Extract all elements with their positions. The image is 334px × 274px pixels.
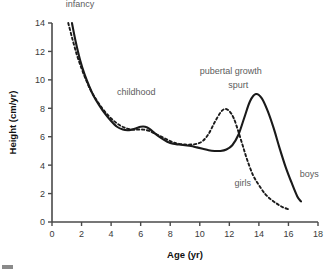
y-tick-label: 2 bbox=[40, 189, 45, 199]
y-tick-label: 4 bbox=[40, 161, 45, 171]
x-tick-label: 14 bbox=[254, 229, 264, 239]
x-tick-label: 18 bbox=[313, 229, 323, 239]
annotation-childhood: childhood bbox=[117, 87, 156, 97]
chart-canvas: 02468101214024681012141618 infancychildh… bbox=[0, 0, 334, 274]
corner-artifact bbox=[2, 265, 13, 269]
x-tick-label: 12 bbox=[224, 229, 234, 239]
annotation-spurt: spurt bbox=[228, 80, 249, 90]
y-tick-label: 12 bbox=[35, 47, 45, 57]
x-tick-label: 6 bbox=[138, 229, 143, 239]
x-tick-label: 16 bbox=[283, 229, 293, 239]
annotation-boys: boys bbox=[300, 169, 320, 179]
x-axis-title: Age (yr) bbox=[167, 249, 203, 260]
annotation-girls: girls bbox=[234, 178, 251, 188]
y-tick-label: 6 bbox=[40, 132, 45, 142]
annotation-infancy: infancy bbox=[66, 0, 95, 9]
x-tick-label: 0 bbox=[49, 229, 54, 239]
y-tick-label: 0 bbox=[40, 217, 45, 227]
x-tick-label: 2 bbox=[79, 229, 84, 239]
y-axis-title: Height (cm/yr) bbox=[7, 91, 18, 155]
x-tick-label: 10 bbox=[195, 229, 205, 239]
x-tick-label: 4 bbox=[109, 229, 114, 239]
y-tick-label: 8 bbox=[40, 104, 45, 114]
x-tick-label: 8 bbox=[168, 229, 173, 239]
y-tick-label: 10 bbox=[35, 75, 45, 85]
annotation-pubertal: pubertal growth bbox=[200, 66, 262, 76]
growth-velocity-chart: 02468101214024681012141618 infancychildh… bbox=[0, 0, 334, 274]
y-tick-label: 14 bbox=[35, 18, 45, 28]
